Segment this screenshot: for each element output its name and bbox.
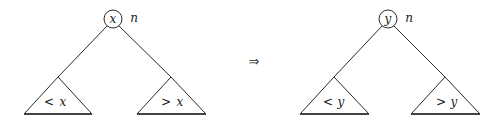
left-subtree-key: x: [60, 95, 67, 109]
right-subtree: > y: [411, 77, 480, 114]
root-node-label: n: [405, 11, 413, 25]
root-node-label: n: [130, 11, 138, 25]
before-tree: < x > x x n: [24, 10, 206, 114]
right-edge: [119, 26, 171, 77]
left-subtree: < y: [300, 77, 369, 114]
implies-arrow-icon: ⇒: [249, 54, 260, 69]
root-node-key: x: [110, 12, 117, 26]
tree-transformation-diagram: < x > x x n ⇒ < y > y: [0, 0, 504, 123]
left-subtree: < x: [24, 77, 92, 114]
right-subtree-relation: >: [161, 95, 171, 109]
after-tree: < y > y y n: [300, 10, 480, 114]
root-node: y n: [379, 10, 413, 28]
left-subtree-relation: <: [44, 95, 54, 109]
left-subtree-triangle: [300, 77, 369, 114]
root-node: x n: [104, 10, 138, 28]
left-subtree-relation: <: [323, 95, 333, 109]
right-subtree-triangle: [137, 77, 206, 114]
left-subtree-triangle: [24, 77, 92, 114]
left-subtree-key: y: [337, 95, 345, 109]
left-edge: [334, 26, 382, 77]
left-edge: [58, 26, 107, 77]
right-subtree-relation: >: [436, 95, 446, 109]
right-edge: [394, 26, 445, 77]
root-node-key: y: [384, 12, 392, 26]
right-subtree-key: y: [450, 95, 458, 109]
right-subtree-key: x: [177, 95, 184, 109]
right-subtree: > x: [137, 77, 206, 114]
